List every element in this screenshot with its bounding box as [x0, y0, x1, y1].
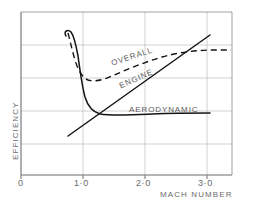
chart-figure: 0 1·0 2·0 3·0 MACH NUMBER EFFICIENCY OVE… [0, 0, 256, 206]
series-overall [68, 33, 231, 81]
x-axis-ticks [21, 175, 207, 179]
chart-canvas [0, 0, 256, 206]
aerodynamic-line [68, 35, 210, 136]
engine-curve [65, 31, 210, 116]
series-aerodynamic [68, 35, 210, 136]
series-engine [65, 31, 210, 116]
overall-curve [68, 33, 231, 81]
